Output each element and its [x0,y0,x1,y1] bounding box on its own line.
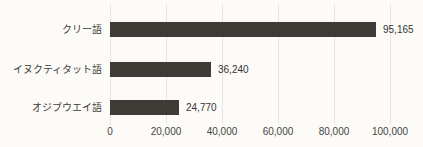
x-tick-label: 100,000 [360,126,420,137]
bar [110,100,179,115]
horizontal-bar-chart: クリー語95,165イヌクティタット語36,240オジブウエイ語24,770 0… [0,0,423,147]
x-tick-label: 0 [80,126,140,137]
value-label: 95,165 [383,22,414,37]
value-label: 36,240 [218,62,249,77]
x-tick-label: 20,000 [136,126,196,137]
category-label: オジブウエイ語 [32,100,102,115]
x-tick-label: 40,000 [192,126,252,137]
bar [110,62,211,77]
value-label: 24,770 [186,100,217,115]
x-tick-label: 60,000 [248,126,308,137]
x-tick-label: 80,000 [304,126,364,137]
bar [110,22,376,37]
category-label: イヌクティタット語 [13,62,102,77]
category-label: クリー語 [62,22,102,37]
